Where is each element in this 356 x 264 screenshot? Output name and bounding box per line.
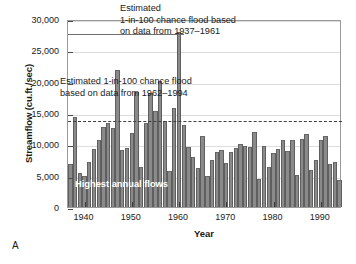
bar [252,132,256,208]
y-tick-mark [68,52,73,53]
gridline [68,115,340,116]
series-inline-label: Highest annual flows [75,179,168,189]
bar [328,164,332,207]
bar [224,163,228,207]
bar [309,170,313,207]
x-tick-mark [132,202,133,207]
annotation-flood-1937-1961: Estimated 1-in-100 chance flood based on… [120,3,236,38]
bar [271,153,275,207]
bar [300,139,304,207]
bar [267,167,271,207]
y-tick-label: 30,000 [13,15,59,25]
y-tick-label: 0 [13,203,59,213]
bar [167,171,171,207]
bar [234,148,238,207]
bar [304,134,308,207]
bar [106,123,110,207]
y-tick-label: 15,000 [13,109,59,119]
streamflow-chart-figure: Streamflow (cu.ft./sec) Highest annual f… [0,0,356,264]
bar [200,136,204,207]
x-tick-label: 1940 [74,212,94,222]
x-tick-label: 1950 [121,212,141,222]
bar [73,117,77,207]
x-tick-mark [226,202,227,207]
bar [153,111,157,207]
y-tick-mark [68,146,73,147]
x-tick-label: 1970 [215,212,235,222]
bar [97,140,101,207]
y-tick-label: 20,000 [13,78,59,88]
bar [144,123,148,207]
bar [125,148,129,207]
bar [337,180,341,207]
x-tick-mark [85,202,86,207]
y-tick-label: 25,000 [13,46,59,56]
plot-inner: Highest annual flows [68,21,340,207]
bar [148,93,152,207]
gridline [68,52,340,53]
y-tick-label: 10,000 [13,140,59,150]
bar [191,157,195,207]
bar [163,121,167,207]
annotation-flood-1962-1994: Estimated 1-in-100 chance flood based on… [60,76,192,99]
bar [333,162,337,207]
bar [172,108,176,207]
bar [182,125,186,207]
plot-area: Highest annual flows [67,20,341,208]
bar [276,149,280,207]
bar [205,176,209,207]
bar [257,179,261,207]
bar [323,136,327,207]
x-tick-mark [321,202,322,207]
bar [238,144,242,207]
bar [68,164,72,207]
bar [295,175,299,207]
bar [210,160,214,207]
x-tick-label: 1990 [310,212,330,222]
bar [130,133,134,207]
y-tick-mark [68,209,73,210]
bar [290,140,294,207]
x-axis-title: Year [67,228,341,239]
bar [281,140,285,207]
bar [186,147,190,207]
bar [285,151,289,207]
bar [219,150,223,207]
panel-label: A [12,240,19,251]
x-tick-mark [179,202,180,207]
bar [111,128,115,207]
threshold-line-flood-threshold-1962-1994 [68,121,342,122]
bar [101,127,105,207]
y-tick-mark [68,178,73,179]
bar [215,152,219,207]
x-tick-label: 1980 [262,212,282,222]
bar [314,160,318,207]
x-tick-mark [274,202,275,207]
bar [248,147,252,207]
bar [134,92,138,207]
bar [243,146,247,207]
x-tick-label: 1960 [168,212,188,222]
bar [262,146,266,207]
bar [196,168,200,207]
bar [229,152,233,207]
y-tick-mark [68,115,73,116]
y-tick-label: 5,000 [13,172,59,182]
bar [177,32,181,207]
y-tick-mark [68,21,73,22]
bar [319,140,323,207]
